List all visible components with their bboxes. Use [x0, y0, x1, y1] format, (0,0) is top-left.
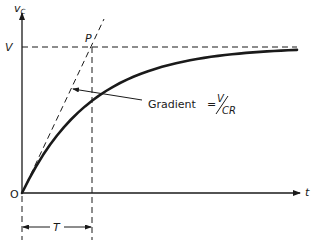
- gradient-equals: =: [207, 98, 216, 111]
- gradient-text: Gradient: [148, 98, 197, 111]
- y-axis-label: vC: [14, 2, 26, 16]
- point-p-label: P: [85, 32, 92, 45]
- time-constant-label: T: [53, 221, 61, 234]
- charging-curve-diagram: vC V P O t T Gradient = V CR: [0, 0, 319, 249]
- x-axis-label: t: [305, 186, 310, 199]
- gradient-denominator: CR: [222, 105, 236, 116]
- v-level-label: V: [5, 41, 14, 54]
- charging-curve: [22, 50, 297, 193]
- origin-label: O: [10, 188, 19, 201]
